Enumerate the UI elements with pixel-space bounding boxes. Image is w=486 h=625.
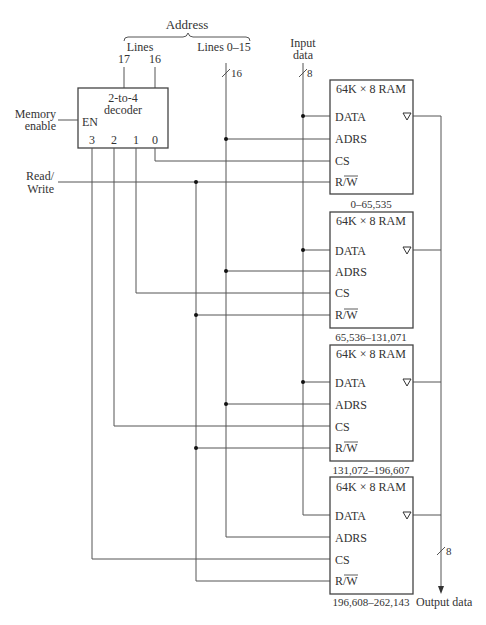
ram-title: 64K × 8 RAM [336, 82, 406, 96]
decoder-enable: EN [82, 115, 98, 129]
decoder: 2-to-4 decoder EN 3 2 1 0 [78, 67, 168, 148]
pin-data: DATA [335, 509, 366, 523]
memory-enable-label-2: enable [25, 119, 56, 133]
pin-rw: R/W [335, 308, 358, 322]
pin-data: DATA [335, 244, 366, 258]
decoder-out-3: 3 [89, 133, 95, 147]
pin-cs: CS [335, 154, 350, 168]
ram-chip-1: 64K × 8 RAM DATA ADRS CS R/W 0–65,535 [330, 80, 413, 210]
pin-rw: R/W [335, 175, 358, 189]
decoder-out-0: 0 [152, 133, 158, 147]
ram-title: 64K × 8 RAM [336, 480, 406, 494]
pin-cs: CS [335, 553, 350, 567]
pin-adrs: ADRS [335, 132, 367, 146]
pin-adrs: ADRS [335, 265, 367, 279]
decoder-title-2: decoder [104, 103, 142, 117]
pin-adrs: ADRS [335, 531, 367, 545]
read-write-label-2: Write [27, 182, 54, 196]
ram-title: 64K × 8 RAM [336, 214, 406, 228]
ram-range: 196,608–262,143 [333, 596, 411, 608]
junction-dots [194, 114, 305, 450]
output-data-label: Output data [416, 595, 473, 609]
ram-chip-4: 64K × 8 RAM DATA ADRS CS R/W 196,608–262… [330, 477, 413, 608]
address-brace: Address Lines 17 16 Lines 0–15 [118, 17, 251, 66]
address-label: Address [166, 17, 209, 32]
pin-rw: R/W [335, 441, 358, 455]
line-17-label: 17 [118, 52, 130, 66]
ram-chip-3: 64K × 8 RAM DATA ADRS CS R/W 131,072–196… [330, 345, 413, 476]
pin-data: DATA [335, 376, 366, 390]
line-16-label: 16 [149, 52, 161, 66]
decoder-out-2: 2 [111, 133, 117, 147]
ram-range: 0–65,535 [350, 198, 392, 210]
memory-decoder-diagram: Address Lines 17 16 Lines 0–15 Input dat… [0, 0, 486, 625]
decoder-out-1: 1 [133, 133, 139, 147]
ram-range: 65,536–131,071 [335, 331, 407, 343]
ram-chip-2: 64K × 8 RAM DATA ADRS CS R/W 65,536–131,… [330, 212, 413, 343]
pin-rw: R/W [335, 574, 358, 588]
ram-title: 64K × 8 RAM [336, 347, 406, 361]
lines-0-15-label: Lines 0–15 [197, 40, 251, 54]
read-write-label-1: Read/ [26, 169, 55, 183]
ram-range: 131,072–196,607 [333, 464, 411, 476]
pin-cs: CS [335, 420, 350, 434]
input-label-2: data [293, 48, 314, 62]
address-bus-width: 16 [231, 67, 243, 79]
input-bus-width: 8 [307, 67, 313, 79]
pin-data: DATA [335, 110, 366, 124]
pin-cs: CS [335, 286, 350, 300]
pin-adrs: ADRS [335, 398, 367, 412]
output-bus-width: 8 [446, 545, 452, 557]
